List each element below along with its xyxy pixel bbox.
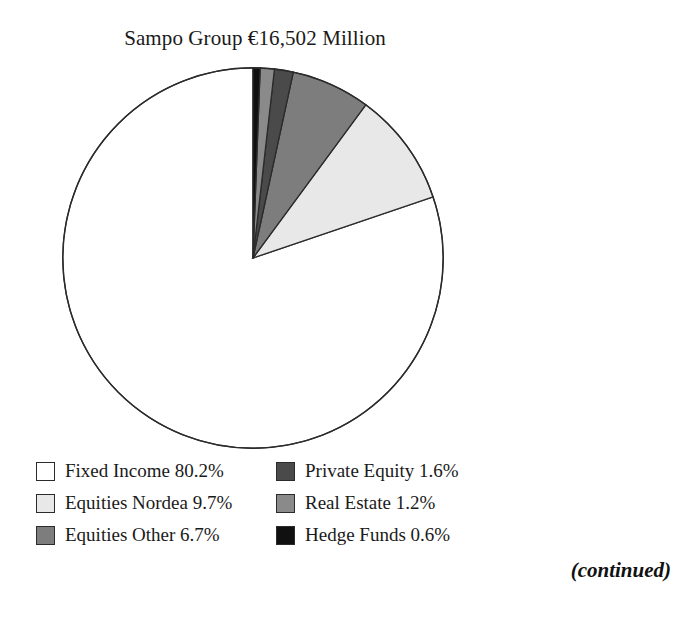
pie-chart-svg xyxy=(57,62,449,454)
legend-label-private-equity: Private Equity 1.6% xyxy=(305,460,459,482)
legend-item-hedge-funds: Hedge Funds 0.6% xyxy=(276,519,506,551)
legend-item-equities-other: Equities Other 6.7% xyxy=(36,519,276,551)
legend-label-fixed-income: Fixed Income 80.2% xyxy=(65,460,224,482)
legend-label-equities-other: Equities Other 6.7% xyxy=(65,524,220,546)
legend-swatch-hedge-funds xyxy=(276,526,295,545)
legend-label-equities-nordea: Equities Nordea 9.7% xyxy=(65,492,232,514)
legend-swatch-private-equity xyxy=(276,462,295,481)
legend: Fixed Income 80.2% Private Equity 1.6% E… xyxy=(36,455,506,551)
legend-swatch-fixed-income xyxy=(36,462,55,481)
legend-item-private-equity: Private Equity 1.6% xyxy=(276,455,506,487)
legend-swatch-equities-other xyxy=(36,526,55,545)
legend-label-real-estate: Real Estate 1.2% xyxy=(305,492,435,514)
continued-note: (continued) xyxy=(571,558,671,583)
pie-slice-group xyxy=(63,68,443,448)
pie-chart xyxy=(57,62,449,454)
legend-item-real-estate: Real Estate 1.2% xyxy=(276,487,506,519)
legend-label-hedge-funds: Hedge Funds 0.6% xyxy=(305,524,450,546)
legend-swatch-equities-nordea xyxy=(36,494,55,513)
legend-item-equities-nordea: Equities Nordea 9.7% xyxy=(36,487,276,519)
pie-chart-figure: Sampo Group €16,502 Million Fixed Income… xyxy=(0,0,693,621)
legend-item-fixed-income: Fixed Income 80.2% xyxy=(36,455,276,487)
legend-swatch-real-estate xyxy=(276,494,295,513)
page-title: Sampo Group €16,502 Million xyxy=(0,26,510,50)
